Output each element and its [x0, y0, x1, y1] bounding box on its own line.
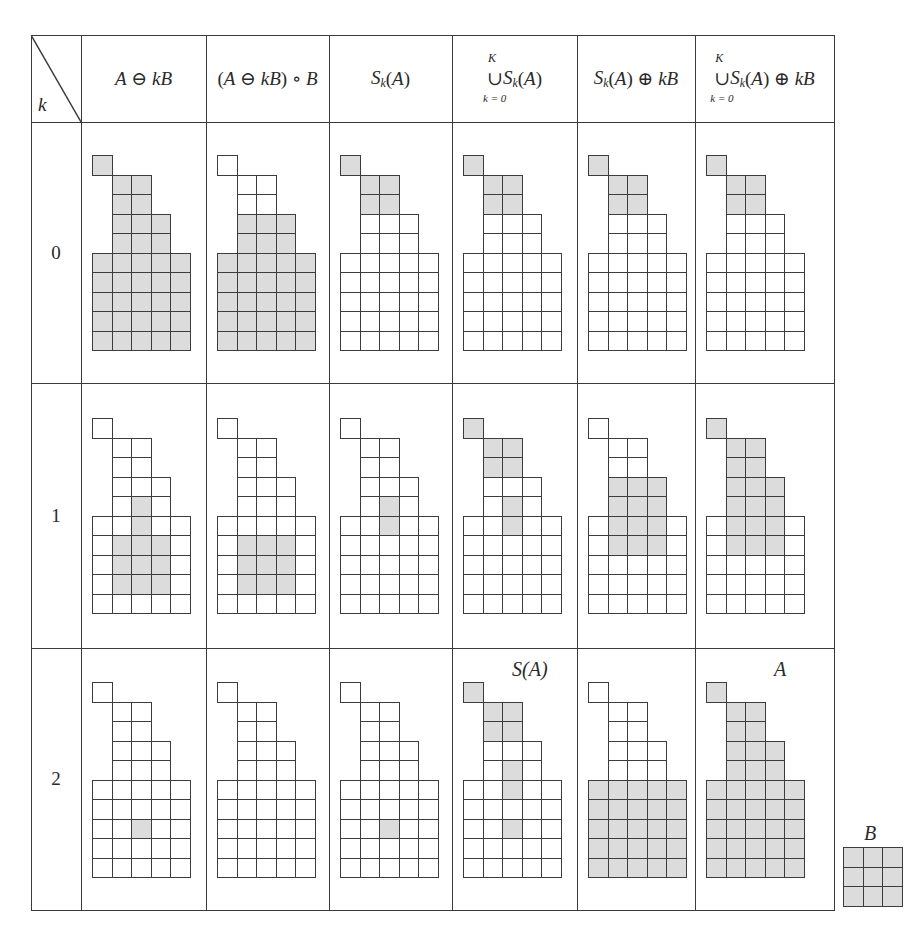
empty-pixel [726, 272, 747, 293]
empty-pixel [217, 838, 238, 859]
empty-pixel [541, 780, 562, 801]
empty-pixel [217, 574, 238, 595]
shaded-pixel [706, 858, 727, 879]
empty-pixel [647, 292, 668, 313]
empty-pixel [588, 535, 609, 556]
shaded-pixel [256, 253, 277, 274]
shaded-pixel [726, 799, 747, 820]
empty-pixel [627, 233, 648, 254]
empty-pixel [217, 819, 238, 840]
empty-pixel [502, 233, 523, 254]
empty-pixel [588, 272, 609, 293]
empty-pixel [608, 233, 629, 254]
shaded-pixel [131, 496, 152, 517]
shape-grid-k1-col2 [340, 418, 438, 613]
empty-pixel [706, 516, 727, 537]
empty-pixel [463, 555, 484, 576]
empty-pixel [295, 555, 316, 576]
empty-pixel [627, 438, 648, 459]
empty-pixel [522, 311, 543, 332]
shaded-pixel [627, 516, 648, 537]
empty-pixel [627, 741, 648, 762]
shaded-pixel [647, 477, 668, 498]
empty-pixel [522, 214, 543, 235]
shaded-pixel [745, 702, 766, 723]
empty-pixel [379, 555, 400, 576]
empty-pixel [418, 535, 439, 556]
empty-pixel [340, 516, 361, 537]
shaded-pixel [647, 496, 668, 517]
empty-pixel [379, 438, 400, 459]
empty-pixel [588, 292, 609, 313]
empty-pixel [627, 272, 648, 293]
empty-pixel [340, 272, 361, 293]
empty-pixel [295, 574, 316, 595]
empty-pixel [131, 760, 152, 781]
empty-pixel [463, 594, 484, 615]
shaded-pixel [151, 292, 172, 313]
shaded-pixel [745, 858, 766, 879]
empty-pixel [502, 594, 523, 615]
row-label-k1: 1 [31, 383, 81, 648]
empty-pixel [784, 535, 805, 556]
structuring-element-pixel [863, 886, 884, 907]
shaded-pixel [340, 155, 361, 176]
shaded-pixel [483, 194, 504, 215]
empty-pixel [360, 741, 381, 762]
shaded-pixel [608, 496, 629, 517]
shaded-pixel [112, 555, 133, 576]
table-rule [206, 35, 207, 910]
shaded-pixel [112, 175, 133, 196]
shaded-pixel [706, 155, 727, 176]
shaded-pixel [706, 799, 727, 820]
empty-pixel [483, 253, 504, 274]
shaded-pixel [502, 496, 523, 517]
empty-pixel [608, 702, 629, 723]
empty-pixel [745, 594, 766, 615]
shaded-pixel [745, 516, 766, 537]
empty-pixel [502, 477, 523, 498]
shaded-pixel [726, 741, 747, 762]
empty-pixel [360, 233, 381, 254]
shape-grid-k0-col3 [463, 155, 561, 350]
shaded-pixel [151, 555, 172, 576]
morphological-skeleton-figure: k A ⊖ kB (A ⊖ kB) ∘ B Sk(A) K ∪ k = 0 Sk… [0, 0, 921, 940]
table-rule [577, 35, 578, 910]
shaded-pixel [112, 311, 133, 332]
empty-pixel [379, 214, 400, 235]
shaded-pixel [784, 819, 805, 840]
empty-pixel [92, 838, 113, 859]
shaded-pixel [608, 535, 629, 556]
empty-pixel [379, 721, 400, 742]
empty-pixel [483, 292, 504, 313]
empty-pixel [131, 594, 152, 615]
shaded-pixel [502, 819, 523, 840]
empty-pixel [360, 311, 381, 332]
empty-pixel [295, 799, 316, 820]
empty-pixel [131, 438, 152, 459]
empty-pixel [745, 311, 766, 332]
empty-pixel [726, 555, 747, 576]
shaded-pixel [765, 535, 786, 556]
shaded-pixel [170, 331, 191, 352]
table-rule [31, 648, 835, 649]
empty-pixel [745, 331, 766, 352]
table-rule [81, 35, 82, 910]
empty-pixel [608, 594, 629, 615]
empty-pixel [627, 253, 648, 274]
empty-pixel [340, 780, 361, 801]
shaded-pixel [92, 311, 113, 332]
shaded-pixel [745, 819, 766, 840]
empty-pixel [170, 516, 191, 537]
empty-pixel [360, 292, 381, 313]
empty-pixel [666, 331, 687, 352]
shaded-pixel [784, 858, 805, 879]
shaded-pixel [170, 253, 191, 274]
empty-pixel [237, 594, 258, 615]
shaded-pixel [502, 721, 523, 742]
shaded-pixel [295, 253, 316, 274]
empty-pixel [360, 574, 381, 595]
empty-pixel [588, 594, 609, 615]
empty-pixel [706, 594, 727, 615]
shaded-pixel [726, 535, 747, 556]
